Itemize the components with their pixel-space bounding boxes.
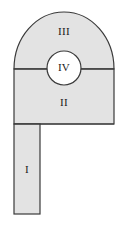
- region-label-II: II: [60, 96, 68, 108]
- region-label-IV: IV: [58, 61, 70, 73]
- region-label-I: I: [25, 163, 29, 175]
- region-label-III: III: [58, 25, 70, 37]
- figure-container: III IV II I: [0, 0, 125, 229]
- composite-section-figure: III IV II I: [0, 0, 125, 229]
